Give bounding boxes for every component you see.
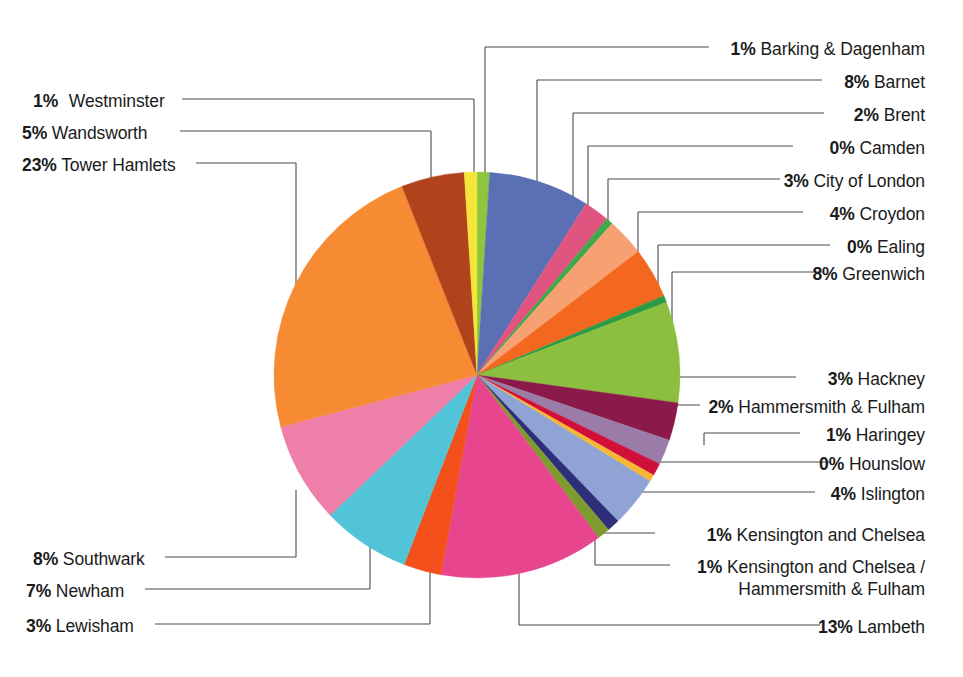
label-haringey: 1% Haringey [826,424,925,446]
label-tower-hamlets: 23% Tower Hamlets [22,154,176,176]
pct-brent: 2% [854,105,879,125]
name-hammersmith-fulham: Hammersmith & Fulham [738,397,925,417]
label-lewisham: 3% Lewisham [26,615,134,637]
pct-lambeth: 13% [818,617,853,637]
label-brent: 2% Brent [854,104,925,126]
pct-kensington-chelsea: 1% [707,525,732,545]
label-wandsworth: 5% Wandsworth [22,122,147,144]
pct-ealing: 0% [847,237,872,257]
name-hackney: Hackney [858,369,925,389]
pct-city-of-london: 3% [784,171,809,191]
pct-newham: 7% [26,581,51,601]
label-hackney: 3% Hackney [828,368,925,390]
pct-haringey: 1% [826,425,851,445]
pct-greenwich: 8% [812,264,837,284]
label-ealing: 0% Ealing [847,236,925,258]
label-croydon: 4% Croydon [830,203,925,225]
pct-barnet: 8% [844,72,869,92]
label-islington: 4% Islington [831,483,925,505]
name-westminster: Westminster [69,91,165,111]
pct-kc-hf: 1% [697,557,722,577]
label-westminster: 1% Westminster [33,90,165,112]
name-kensington-chelsea: Kensington and Chelsea [737,525,926,545]
pie-slices-group [274,172,680,578]
label-southwark: 8% Southwark [33,548,145,570]
name-barnet: Barnet [874,72,925,92]
name-lambeth: Lambeth [858,617,925,637]
pct-lewisham: 3% [26,616,51,636]
name-city-of-london: City of London [814,171,925,191]
pct-hammersmith-fulham: 2% [708,397,733,417]
label-kensington-chelsea: 1% Kensington and Chelsea [707,524,925,546]
name-croydon: Croydon [860,204,925,224]
label-camden: 0% Camden [830,137,925,159]
name-greenwich: Greenwich [842,264,925,284]
label-greenwich: 8% Greenwich [812,263,925,285]
label-hammersmith-fulham: 2% Hammersmith & Fulham [708,396,925,418]
label-hounslow: 0% Hounslow [819,453,925,475]
pct-barking-dagenham: 1% [731,39,756,59]
name-hounslow: Hounslow [849,454,925,474]
label-city-of-london: 3% City of London [784,170,925,192]
pct-hounslow: 0% [819,454,844,474]
label-barnet: 8% Barnet [844,71,925,93]
kc-hf-line-2: Hammersmith & Fulham [625,578,925,600]
pct-croydon: 4% [830,204,855,224]
pct-westminster: 1% [33,91,58,111]
name-barking-dagenham: Barking & Dagenham [760,39,925,59]
name-lewisham: Lewisham [56,616,134,636]
name-kc-hf-part1: Kensington and Chelsea / [727,557,925,577]
pct-islington: 4% [831,484,856,504]
pct-wandsworth: 5% [22,123,47,143]
pct-hackney: 3% [828,369,853,389]
name-islington: Islington [861,484,925,504]
name-wandsworth: Wandsworth [52,123,148,143]
name-brent: Brent [884,105,925,125]
pct-southwark: 8% [33,549,58,569]
kc-hf-line-1: 1% Kensington and Chelsea / [625,556,925,578]
name-southwark: Southwark [63,549,145,569]
name-haringey: Haringey [856,425,925,445]
pct-tower-hamlets: 23% [22,155,57,175]
name-tower-hamlets: Tower Hamlets [61,155,175,175]
name-ealing: Ealing [877,237,925,257]
name-newham: Newham [56,581,124,601]
label-barking-dagenham: 1% Barking & Dagenham [731,38,925,60]
label-newham: 7% Newham [26,580,124,602]
label-lambeth: 13% Lambeth [818,616,925,638]
pie-chart-page: 1% Barking & Dagenham 8% Barnet 2% Brent… [0,0,963,677]
label-kensington-chelsea-hammersmith-fulham: 1% Kensington and Chelsea / Hammersmith … [625,556,925,601]
name-camden: Camden [859,138,925,158]
pct-camden: 0% [830,138,855,158]
